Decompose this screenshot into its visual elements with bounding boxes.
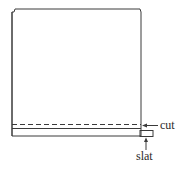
panel-diagram (0, 0, 194, 173)
panel-outline (12, 9, 141, 136)
cut-label: cut (160, 119, 175, 131)
slat-rect (140, 131, 153, 137)
slat-label: slat (136, 150, 153, 162)
cut-arrow-head (142, 124, 147, 128)
slat-arrow-head (144, 138, 148, 143)
